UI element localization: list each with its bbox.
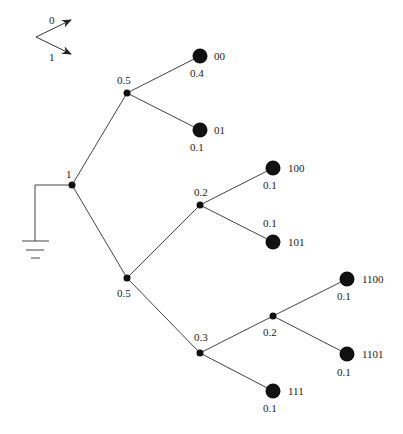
- edge-n0-01: [127, 93, 200, 130]
- branch-legend: 0 1: [36, 14, 71, 63]
- leaf-01: 01 0.1: [190, 123, 225, 154]
- leaf-01-prob: 0.1: [190, 141, 204, 153]
- leaf-1101-prob: 0.1: [337, 366, 351, 378]
- ground-icon: [22, 185, 72, 258]
- leaf-100: 100 0.1: [263, 161, 305, 192]
- legend-label-0: 0: [49, 14, 55, 26]
- node-n11-prob: 0.3: [194, 331, 208, 343]
- leaf-00-code: 00: [214, 50, 226, 62]
- edge-n110-1100: [273, 279, 347, 316]
- edge-n1-n11: [127, 278, 200, 353]
- leaf-100-code: 100: [288, 162, 305, 174]
- leaf-100-prob: 0.1: [263, 179, 277, 191]
- node-n10-prob: 0.2: [194, 186, 208, 198]
- leaf-1100-code: 1100: [362, 273, 384, 285]
- node-root: [69, 182, 76, 189]
- internal-nodes: 1 0.5 0.5 0.2 0.3 0.2: [66, 74, 277, 357]
- leaf-101: 101 0.1: [263, 217, 305, 250]
- edge-n110-1101: [273, 316, 347, 354]
- node-n110-prob: 0.2: [263, 326, 277, 338]
- leaf-1100: 1100 0.1: [337, 272, 384, 303]
- node-n0-prob: 0.5: [117, 74, 131, 86]
- edge-root-n1: [72, 185, 127, 278]
- node-n1: [124, 275, 131, 282]
- edge-n1-n10: [127, 205, 200, 278]
- leaf-101-code: 101: [288, 236, 305, 248]
- leaf-111-prob: 0.1: [263, 402, 277, 414]
- leaf-1100-prob: 0.1: [337, 290, 351, 302]
- leaf-111: 111 0.1: [263, 384, 304, 415]
- node-n10: [197, 202, 204, 209]
- node-n1-prob: 0.5: [117, 287, 131, 299]
- tree-edges: [72, 56, 347, 391]
- edge-root-n0: [72, 93, 127, 185]
- node-n11: [197, 350, 204, 357]
- leaf-01-code: 01: [214, 124, 225, 136]
- node-n110: [270, 313, 277, 320]
- legend-label-1: 1: [49, 51, 55, 63]
- huffman-tree-diagram: 0 1 1 0.5 0.5 0.2 0.3 0.2: [0, 0, 403, 434]
- leaf-111-code: 111: [288, 385, 304, 397]
- leaf-1101-code: 1101: [362, 348, 384, 360]
- leaf-00-prob: 0.4: [190, 67, 204, 79]
- leaf-nodes: 00 0.4 01 0.1 100 0.1 101 0.1 1100 0.1 1…: [190, 49, 384, 415]
- leaf-1101: 1101 0.1: [337, 347, 384, 379]
- node-n0: [124, 90, 131, 97]
- leaf-101-prob: 0.1: [263, 217, 277, 229]
- node-root-prob: 1: [66, 168, 72, 180]
- edge-n11-111: [200, 353, 273, 391]
- leaf-00: 00 0.4: [190, 49, 226, 80]
